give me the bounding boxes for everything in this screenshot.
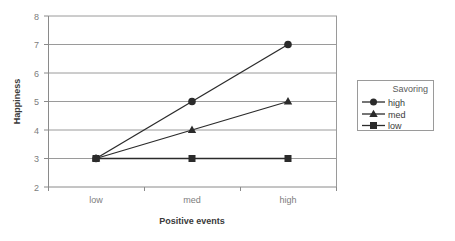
series-med-point-high [284,97,292,105]
legend-label-high: high [388,98,405,108]
legend: Savoring high med low [358,81,434,132]
series-high-point-high [284,41,292,49]
y-tick-label-5: 5 [34,97,39,107]
legend-title: Savoring [392,84,428,94]
gridlines [48,16,337,159]
x-axis-title: Positive events [159,216,225,226]
y-tick-label-2: 2 [34,183,39,193]
circle-marker-icon [370,99,377,106]
x-tick-label-low: low [89,195,103,205]
series-high-point-med [188,98,196,106]
series-low-point-high [285,155,292,162]
legend-label-low: low [388,121,402,131]
y-tick-label-6: 6 [34,69,39,79]
x-tick-label-high: high [279,195,296,205]
series-low-point-med [189,155,196,162]
legend-label-med: med [388,110,406,120]
x-tick-label-med: med [183,195,201,205]
y-tick-label-8: 8 [34,12,39,22]
square-marker-icon [370,122,377,129]
y-tick-label-3: 3 [34,154,39,164]
y-axis-ticks [44,16,48,187]
y-tick-label-7: 7 [34,40,39,50]
series-high-point-low [92,155,100,163]
line-chart: 8 7 6 5 4 3 2 Happiness low med high Pos… [0,0,455,241]
series-low [93,155,292,162]
y-axis-title: Happiness [12,79,22,125]
chart-figure: 8 7 6 5 4 3 2 Happiness low med high Pos… [0,0,455,241]
y-tick-label-4: 4 [34,126,39,136]
x-axis-ticks [49,187,337,191]
series-med [92,97,292,162]
